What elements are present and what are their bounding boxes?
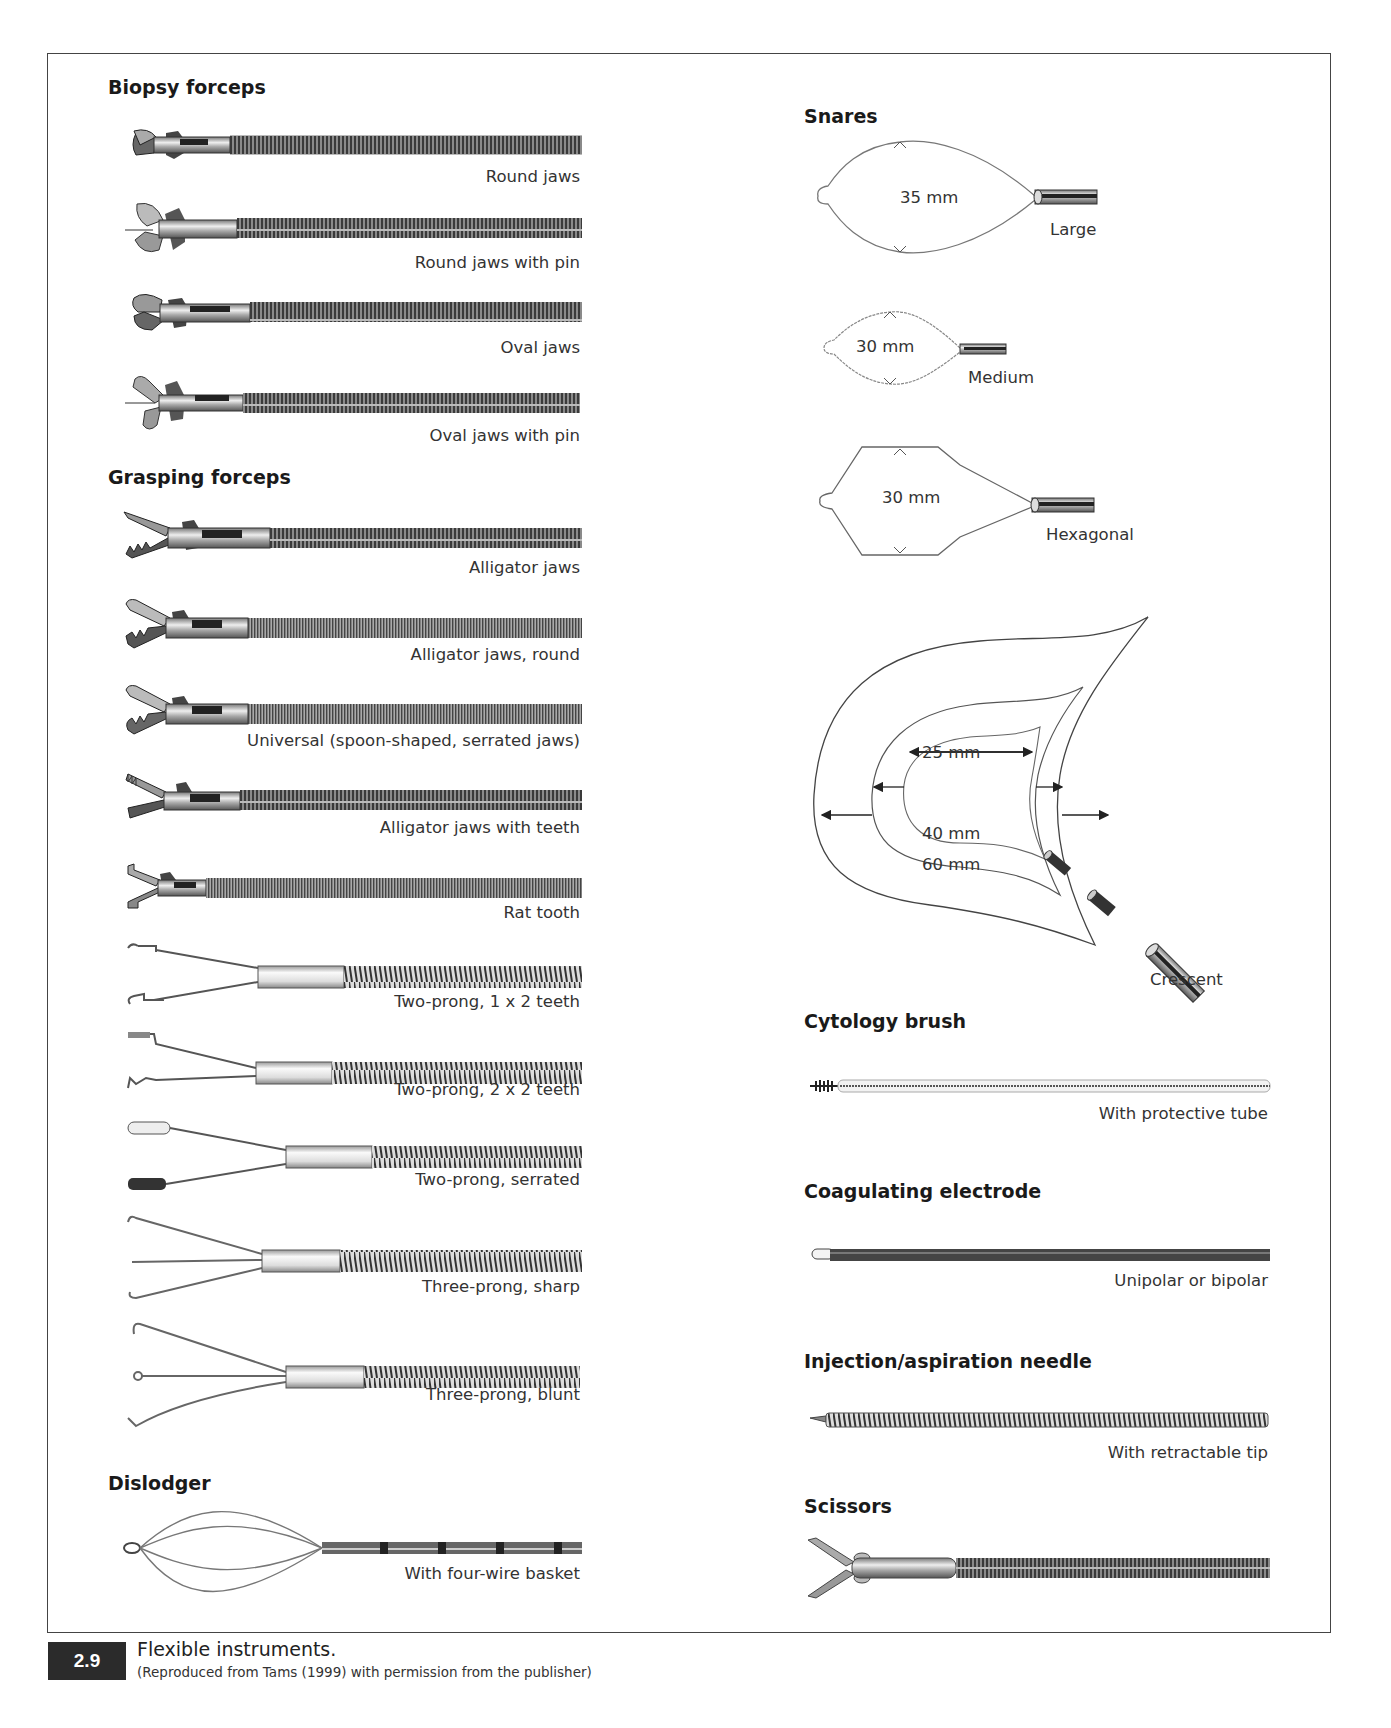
oval-jaw-forceps-icon bbox=[130, 290, 582, 335]
crescent-snare-icon bbox=[800, 605, 1220, 975]
label-unipolar-or-bipolar: Unipolar or bipolar bbox=[1114, 1271, 1268, 1290]
label-four-wire-basket: With four-wire basket bbox=[405, 1564, 580, 1583]
universal-forceps-icon bbox=[122, 684, 582, 734]
heading-dislodger: Dislodger bbox=[108, 1472, 211, 1494]
heading-biopsy-forceps: Biopsy forceps bbox=[108, 76, 266, 98]
label-snare-medium: Medium bbox=[968, 368, 1034, 387]
figure-number-badge: 2.9 bbox=[48, 1642, 126, 1680]
label-three-prong-sharp: Three-prong, sharp bbox=[422, 1277, 580, 1296]
heading-grasping-forceps: Grasping forceps bbox=[108, 466, 291, 488]
label-snare-crescent: Crescent bbox=[1150, 970, 1223, 989]
label-alligator-jaws: Alligator jaws bbox=[469, 558, 580, 577]
alligator-jaw-forceps-icon bbox=[122, 510, 582, 560]
label-alligator-jaws-round: Alligator jaws, round bbox=[411, 645, 580, 664]
label-round-jaws-with-pin: Round jaws with pin bbox=[415, 253, 580, 272]
label-two-prong-serrated: Two-prong, serrated bbox=[415, 1170, 580, 1189]
figure-caption: Flexible instruments. bbox=[137, 1638, 336, 1660]
heading-coagulating-electrode: Coagulating electrode bbox=[804, 1180, 1041, 1202]
label-oval-jaws-with-pin: Oval jaws with pin bbox=[430, 426, 581, 445]
heading-scissors: Scissors bbox=[804, 1495, 892, 1517]
label-universal: Universal (spoon-shaped, serrated jaws) bbox=[247, 731, 580, 750]
heading-cytology-brush: Cytology brush bbox=[804, 1010, 966, 1032]
label-three-prong-blunt: Three-prong, blunt bbox=[426, 1385, 580, 1404]
label-two-prong-2x2: Two-prong, 2 x 2 teeth bbox=[394, 1080, 580, 1099]
snare-medium-size: 30 mm bbox=[856, 337, 914, 356]
label-alligator-jaws-with-teeth: Alligator jaws with teeth bbox=[380, 818, 580, 837]
alligator-round-forceps-icon bbox=[122, 598, 582, 648]
label-two-prong-1x2: Two-prong, 1 x 2 teeth bbox=[394, 992, 580, 1011]
crescent-size-40: 40 mm bbox=[922, 824, 980, 843]
heading-snares: Snares bbox=[804, 105, 878, 127]
label-rat-tooth: Rat tooth bbox=[503, 903, 580, 922]
scissors-icon bbox=[806, 1538, 1270, 1598]
label-snare-large: Large bbox=[1050, 220, 1096, 239]
figure-credit: (Reproduced from Tams (1999) with permis… bbox=[137, 1664, 592, 1680]
cytology-brush-icon bbox=[808, 1076, 1270, 1096]
snare-hexagonal-size: 30 mm bbox=[882, 488, 940, 507]
injection-needle-icon bbox=[808, 1410, 1270, 1430]
crescent-size-25: 25 mm bbox=[922, 743, 980, 762]
label-with-retractable-tip: With retractable tip bbox=[1108, 1443, 1268, 1462]
snare-large-size: 35 mm bbox=[900, 188, 958, 207]
heading-injection-needle: Injection/aspiration needle bbox=[804, 1350, 1092, 1372]
crescent-size-60: 60 mm bbox=[922, 855, 980, 874]
three-prong-blunt-icon bbox=[124, 1318, 582, 1430]
label-with-protective-tube: With protective tube bbox=[1099, 1104, 1268, 1123]
label-snare-hexagonal: Hexagonal bbox=[1046, 525, 1134, 544]
coagulating-electrode-icon bbox=[810, 1245, 1270, 1265]
round-jaw-forceps-icon bbox=[130, 125, 582, 165]
oval-snare-large-icon bbox=[810, 138, 1110, 263]
label-oval-jaws: Oval jaws bbox=[501, 338, 580, 357]
round-jaw-pin-forceps-icon bbox=[125, 200, 582, 260]
alligator-teeth-forceps-icon bbox=[124, 772, 582, 822]
label-round-jaws: Round jaws bbox=[486, 167, 580, 186]
